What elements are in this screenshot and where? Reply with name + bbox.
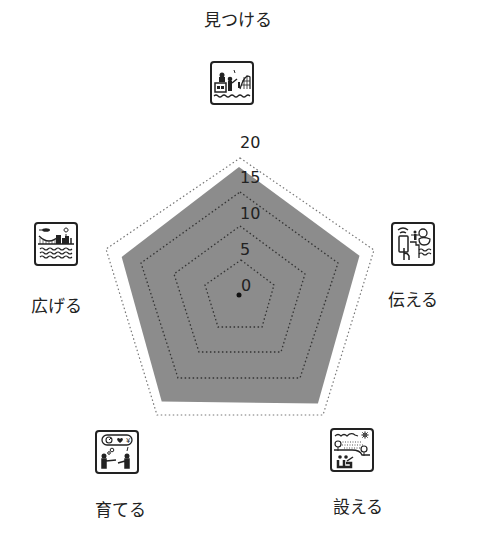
tick-10: 10 [240, 204, 260, 223]
axis-label-communicate: 伝える [388, 286, 438, 311]
axis-label-nurture: 育てる [95, 496, 146, 521]
axis-label-discover: 見つける [204, 6, 272, 31]
tick-5: 5 [240, 240, 250, 259]
tick-20: 20 [240, 133, 260, 152]
axis-label-arrange: 設える [333, 493, 383, 518]
tick-0: 0 [241, 276, 251, 295]
axis-label-expand: 広げる [31, 292, 82, 317]
tick-15: 15 [240, 168, 260, 187]
arrange-icon [330, 428, 374, 472]
expand-icon [34, 222, 78, 266]
discover-icon [210, 61, 254, 105]
communicate-icon [391, 222, 435, 266]
svg-text:¥: ¥ [126, 437, 131, 445]
nurture-icon: ¥ [95, 430, 139, 474]
